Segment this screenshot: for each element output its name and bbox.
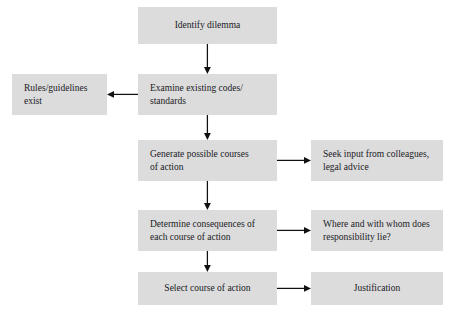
node-generate-possible-courses: Generate possible courses of action: [138, 140, 277, 181]
node-label: Seek input from colleagues, legal advice: [311, 148, 443, 173]
node-label: Identify dilemma: [138, 19, 277, 32]
node-examine-existing-codes: Examine existing codes/ standards: [138, 74, 277, 115]
flowchart-canvas: Identify dilemma Examine existing codes/…: [0, 0, 458, 317]
node-label: Select course of action: [138, 282, 277, 295]
arrow-determine-to-select: [204, 251, 211, 272]
node-label: Where and with whom does responsibility …: [311, 218, 443, 243]
node-label: Justification: [311, 282, 443, 295]
node-seek-input-colleagues: Seek input from colleagues, legal advice: [311, 140, 443, 181]
arrow-identify-to-examine: [204, 44, 211, 74]
arrow-examine-to-generate: [204, 115, 211, 140]
node-select-course-of-action: Select course of action: [138, 272, 277, 305]
node-label: Rules/guidelines exist: [12, 82, 107, 107]
node-label: Generate possible courses of action: [138, 148, 277, 173]
node-label: Determine consequences of each course of…: [138, 218, 277, 243]
node-identify-dilemma: Identify dilemma: [138, 7, 277, 44]
node-responsibility-lie: Where and with whom does responsibility …: [311, 210, 443, 251]
node-label: Examine existing codes/ standards: [138, 82, 277, 107]
node-determine-consequences: Determine consequences of each course of…: [138, 210, 277, 251]
node-justification: Justification: [311, 272, 443, 305]
arrow-select-to-justification: [277, 285, 311, 292]
arrow-determine-to-responsibility: [277, 227, 311, 234]
arrow-generate-to-determine: [204, 181, 211, 210]
node-rules-guidelines-exist: Rules/guidelines exist: [12, 74, 107, 115]
arrow-examine-to-rules: [107, 91, 138, 98]
arrow-generate-to-seek-input: [277, 157, 311, 164]
